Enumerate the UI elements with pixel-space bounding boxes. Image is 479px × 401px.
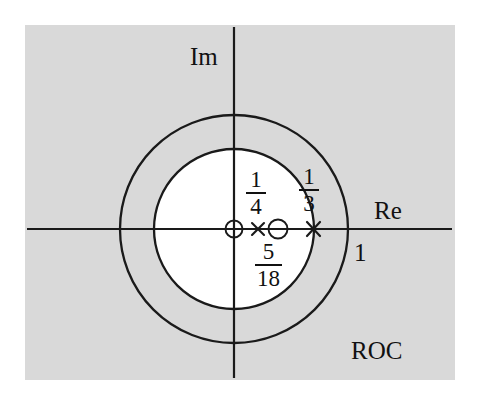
imaginary-axis-label: Im xyxy=(190,44,218,69)
fraction-denominator: 4 xyxy=(248,194,264,218)
pole-zero-figure: Im Re 1 ROC 1 4 1 3 5 18 xyxy=(0,0,479,401)
real-axis-label: Re xyxy=(374,198,402,223)
fraction-numerator: 5 xyxy=(261,240,277,264)
fraction-numerator: 1 xyxy=(301,165,317,189)
pole-one-third-label: 1 3 xyxy=(299,165,319,216)
fraction-denominator: 3 xyxy=(301,191,317,215)
zero-five-eighteenths-label: 5 18 xyxy=(255,240,282,291)
fraction-denominator: 18 xyxy=(255,266,282,290)
pole-one-quarter-label: 1 4 xyxy=(246,168,266,219)
pole-zero-plot-svg xyxy=(0,0,479,401)
fraction-numerator: 1 xyxy=(248,168,264,192)
unit-circle-label: 1 xyxy=(354,240,367,265)
roc-label: ROC xyxy=(351,338,402,363)
